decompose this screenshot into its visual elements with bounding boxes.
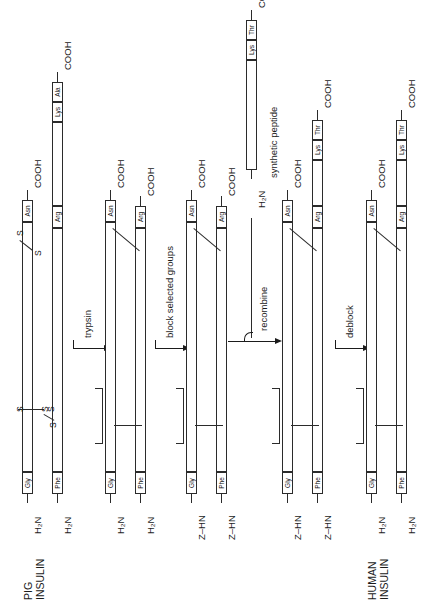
synthetic-peptide-thr-box: Thr (246, 20, 257, 40)
synthetic-peptide-cooh-label: COOH (256, 0, 267, 8)
figure-canvas: Asn Gly COOH H₂N Arg Lys Ala Phe COOH H₂… (0, 0, 427, 601)
pig-a-chain-c-stub (27, 190, 28, 200)
trypsin-b-chain-c-stub (140, 196, 141, 206)
block-a-chain-cooh-label: COOH (196, 160, 207, 189)
deblock-arrow-shaft (335, 348, 365, 349)
pig-insulin-caption-line1: PIG (22, 582, 34, 600)
trypsin-disulfide-tie (114, 425, 142, 426)
trypsin-a-chain-asn-box: Asn (105, 200, 116, 222)
block-a-chain-c-stub (191, 190, 192, 200)
human-insulin-caption-line2: INSULIN (378, 559, 390, 600)
recombine-a-chain-zhn-label: Z–HN (292, 515, 303, 540)
block-step-label: block selected groups (164, 246, 175, 338)
disulfide-s-label: S (48, 422, 58, 428)
trypsin-b-chain-cooh-label: COOH (145, 168, 156, 197)
deblock-step-label: deblock (344, 305, 355, 338)
trypsin-b-chain-phe-box: Phe (135, 472, 146, 494)
residue-label: Gly (24, 478, 31, 488)
disulfide-s-label: S (40, 406, 50, 412)
human-disulfide-bracket (356, 388, 364, 444)
synthetic-peptide-h2n-label: H₂N (256, 191, 267, 208)
residue-label: Arg (137, 212, 144, 222)
pig-b-chain-c-stub (57, 72, 58, 82)
synthetic-peptide-feed-line (251, 218, 252, 338)
residue-label: Asn (107, 205, 114, 216)
residue-label: Lys (54, 107, 61, 117)
trypsin-a-chain-c-stub (110, 190, 111, 200)
human-b-chain-thr-box: Thr (396, 120, 407, 140)
residue-label: Phe (314, 477, 321, 489)
block-b-chain-cooh-label: COOH (226, 168, 237, 197)
trypsin-a-chain-gly-box: Gly (105, 472, 116, 494)
pig-a-chain-gly-box: Gly (22, 472, 33, 494)
synthetic-peptide-c-stub (251, 10, 252, 20)
residue-label: Asn (24, 205, 31, 216)
recombine-b-chain-c-stub (317, 110, 318, 120)
human-b-chain-h2n-label: H₂N (406, 517, 417, 534)
residue-label: Gly (368, 478, 375, 488)
block-b-chain-phe-box: Phe (216, 472, 227, 494)
human-b-chain-cooh-label: COOH (406, 80, 417, 109)
synthetic-peptide-n-stub (251, 170, 252, 179)
residue-label: Phe (54, 477, 61, 489)
residue-label: Phe (218, 477, 225, 489)
block-a-chain-zhn-label: Z–HN (196, 515, 207, 540)
block-disulfide-bracket (176, 388, 184, 444)
residue-label: Thr (314, 125, 321, 135)
trypsin-a-chain-h2n-label: H₂N (115, 517, 126, 534)
residue-label: Phe (398, 477, 405, 489)
trypsin-b-chain-arg-box: Arg (135, 206, 146, 228)
block-b-chain-backbone (216, 228, 227, 472)
recombine-b-chain-backbone-lower (312, 228, 323, 472)
residue-label: Lys (398, 145, 405, 155)
pig-b-chain-phe-box: Phe (52, 472, 63, 494)
residue-label: Asn (284, 205, 291, 216)
pig-b-chain-h2n-label: H₂N (62, 517, 73, 534)
disulfide-s-label: S (15, 230, 25, 236)
recombine-b-chain-cooh-label: COOH (322, 80, 333, 109)
recombine-disulfide-bracket (272, 388, 280, 444)
residue-label: Lys (314, 145, 321, 155)
residue-label: Asn (368, 205, 375, 216)
pig-b-chain-cooh-label: COOH (62, 42, 73, 71)
block-a-chain-backbone (186, 222, 197, 472)
human-insulin-caption-line1: HUMAN (366, 562, 378, 601)
residue-label: Lys (248, 45, 255, 55)
residue-label: Arg (218, 212, 225, 222)
trypsin-step-label: trypsin (82, 310, 93, 338)
recombine-a-chain-backbone (282, 222, 293, 472)
residue-label: Arg (54, 212, 61, 222)
human-b-chain-backbone-lower (396, 228, 407, 472)
pig-a-chain-asn-box: Asn (22, 200, 33, 222)
recombine-b-chain-arg-box: Arg (312, 206, 323, 228)
block-b-chain-zhn-label: Z–HN (226, 515, 237, 540)
recombine-b-chain-lys-box: Lys (312, 140, 323, 160)
pig-b-chain-backbone-lower (52, 228, 63, 472)
trypsin-b-chain-n-stub (140, 494, 141, 503)
trypsin-b-chain-backbone (135, 228, 146, 472)
block-a-chain-gly-box: Gly (186, 472, 197, 494)
human-b-chain-synthetic-segment (396, 160, 407, 206)
recombine-arrow-shaft (228, 341, 278, 342)
recombine-a-chain-n-stub (287, 494, 288, 503)
human-b-chain-c-stub (401, 110, 402, 120)
block-arrow-shaft (155, 348, 185, 349)
residue-label: Asn (188, 205, 195, 216)
disulfide-s-label: S (33, 250, 43, 256)
block-a-chain-n-stub (191, 494, 192, 503)
recombine-b-chain-phe-box: Phe (312, 472, 323, 494)
human-a-chain-n-stub (371, 494, 372, 503)
block-b-chain-n-stub (221, 494, 222, 503)
trypsin-a-chain-cooh-label: COOH (115, 160, 126, 189)
block-disulfide-tie (195, 425, 223, 426)
block-b-chain-c-stub (221, 196, 222, 206)
recombine-a-chain-gly-box: Gly (282, 472, 293, 494)
residue-label: Gly (284, 478, 291, 488)
recombine-b-chain-zhn-label: Z–HN (322, 515, 333, 540)
recombine-a-chain-cooh-label: COOH (292, 160, 303, 189)
residue-label: Thr (248, 25, 255, 35)
residue-label: Arg (398, 212, 405, 222)
pig-a-chain-h2n-label: H₂N (32, 517, 43, 534)
recombine-a-chain-c-stub (287, 190, 288, 200)
trypsin-a-chain-n-stub (110, 494, 111, 503)
